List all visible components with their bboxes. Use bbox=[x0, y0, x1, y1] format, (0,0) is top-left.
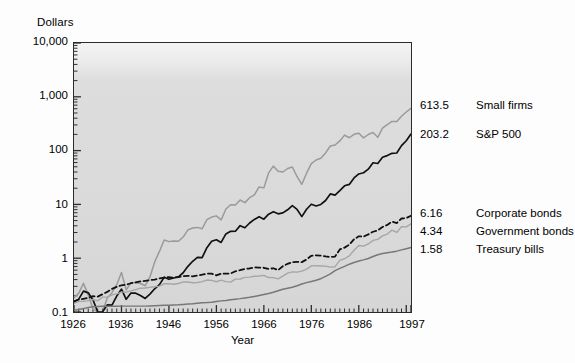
plot-area bbox=[73, 42, 412, 313]
x-tick-1936: 1936 bbox=[98, 318, 144, 330]
x-tick-1997: 1997 bbox=[389, 318, 435, 330]
plot-svg bbox=[74, 43, 411, 312]
end-label-name: Treasury bills bbox=[476, 243, 544, 255]
end-label-name: Government bonds bbox=[476, 225, 574, 237]
series-line-small-firms bbox=[74, 108, 411, 312]
chart-figure: Dollars 10,0001,0001001010.1 19261936194… bbox=[0, 0, 575, 363]
axis-ticks bbox=[74, 43, 411, 312]
y-tick-1000: 1,000 bbox=[6, 90, 68, 101]
end-label-name: S&P 500 bbox=[476, 128, 521, 140]
end-label-value: 4.34 bbox=[420, 225, 458, 237]
x-tick-1946: 1946 bbox=[145, 318, 191, 330]
end-label-value: 6.16 bbox=[420, 207, 458, 219]
y-tick-100: 100 bbox=[6, 144, 68, 155]
end-label-name: Small firms bbox=[476, 99, 533, 111]
end-label-value: 1.58 bbox=[420, 243, 458, 255]
y-tick-10: 10 bbox=[6, 199, 68, 210]
series-line-corporate-bonds bbox=[74, 216, 411, 302]
x-tick-1926: 1926 bbox=[50, 318, 96, 330]
x-axis-title: Year bbox=[0, 334, 485, 346]
y-tick-10000: 10,000 bbox=[6, 36, 68, 47]
x-tick-1986: 1986 bbox=[336, 318, 382, 330]
data-series-layer bbox=[74, 108, 411, 312]
end-label-value: 203.2 bbox=[420, 128, 458, 140]
y-tick-1: 1 bbox=[6, 253, 68, 264]
x-tick-1956: 1956 bbox=[193, 318, 239, 330]
y-axis-tick-labels: 10,0001,0001001010.1 bbox=[0, 0, 68, 363]
x-tick-1966: 1966 bbox=[241, 318, 287, 330]
end-label-value: 613.5 bbox=[420, 99, 458, 111]
end-label-name: Corporate bonds bbox=[476, 207, 562, 219]
y-tick-0.1: 0.1 bbox=[6, 307, 68, 318]
x-tick-1976: 1976 bbox=[289, 318, 335, 330]
